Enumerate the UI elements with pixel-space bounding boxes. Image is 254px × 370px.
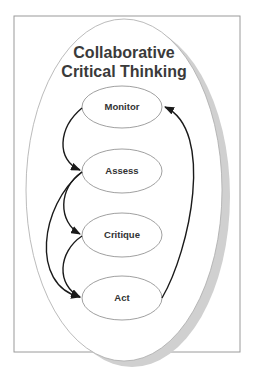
title-line-2: Critical Thinking — [61, 63, 186, 80]
node-act-label: Act — [114, 292, 130, 303]
title-line-1: Collaborative — [73, 44, 174, 61]
node-monitor: Monitor — [82, 86, 162, 128]
node-monitor-label: Monitor — [105, 101, 140, 112]
diagram-canvas: Collaborative Critical Thinking Monitor … — [0, 0, 254, 370]
node-act: Act — [82, 276, 162, 320]
node-assess: Assess — [82, 149, 162, 193]
node-critique-label: Critique — [104, 229, 140, 240]
node-critique: Critique — [82, 213, 162, 257]
node-assess-label: Assess — [105, 165, 138, 176]
